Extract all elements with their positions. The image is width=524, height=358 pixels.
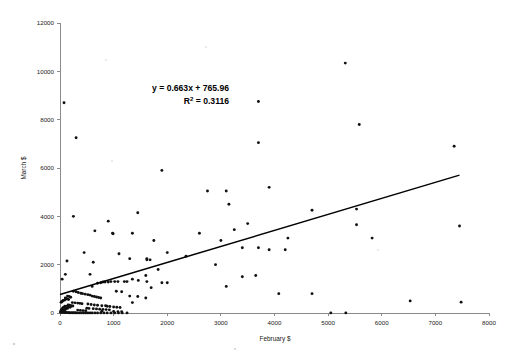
data-point [409, 299, 412, 302]
data-point [152, 239, 155, 242]
data-point [112, 310, 115, 313]
data-point [120, 310, 123, 313]
data-point [128, 257, 131, 260]
data-point [93, 229, 96, 232]
data-point [225, 190, 228, 193]
x-tick-label: 8000 [482, 319, 496, 326]
data-point [95, 307, 98, 310]
x-tick-label: 2000 [160, 319, 174, 326]
data-point [92, 307, 95, 310]
data-point [131, 278, 134, 281]
data-point [257, 246, 260, 249]
data-point [166, 251, 169, 254]
data-point [96, 304, 99, 307]
y-axis-ticks: 020004000600080001000012000 [37, 19, 60, 316]
data-point [71, 301, 74, 304]
data-point [69, 296, 72, 299]
data-point [61, 278, 64, 281]
data-point [206, 190, 209, 193]
data-point [358, 123, 361, 126]
data-point [254, 274, 257, 277]
data-point [145, 280, 148, 283]
x-tick-label: 0 [58, 319, 62, 326]
data-point [115, 290, 118, 293]
data-point [72, 215, 75, 218]
x-tick-label: 1000 [107, 319, 121, 326]
x-tick-label: 7000 [428, 319, 442, 326]
data-point [371, 237, 374, 240]
data-point [108, 305, 111, 308]
data-point [83, 251, 86, 254]
data-point [246, 222, 249, 225]
data-point [136, 211, 139, 214]
data-point [137, 279, 140, 282]
data-point [344, 62, 347, 65]
data-point [118, 252, 121, 255]
data-point [64, 273, 67, 276]
regression-equation-label: y = 0.663x + 765.96 [152, 83, 229, 93]
data-point [311, 292, 314, 295]
data-point [88, 307, 91, 310]
data-point [108, 308, 111, 311]
x-tick-label: 3000 [214, 319, 228, 326]
data-point [286, 237, 289, 240]
trendline [60, 175, 460, 294]
data-point [160, 281, 163, 284]
y-tick-label: 0 [51, 309, 55, 316]
data-point [93, 304, 96, 307]
data-point [160, 169, 163, 172]
data-point [93, 311, 96, 314]
data-point [277, 292, 280, 295]
data-point [112, 232, 115, 235]
data-point [60, 301, 63, 304]
data-point [241, 275, 244, 278]
data-point [257, 141, 260, 144]
data-point [123, 280, 126, 283]
y-tick-label: 10000 [37, 68, 55, 75]
data-point [119, 306, 122, 309]
data-point [128, 295, 131, 298]
data-point [63, 101, 66, 104]
data-point [74, 301, 77, 304]
data-point [131, 301, 134, 304]
data-point [106, 305, 109, 308]
data-point [344, 311, 347, 314]
data-point [355, 208, 358, 211]
data-point [113, 280, 116, 283]
data-point [233, 228, 236, 231]
data-point [67, 298, 70, 301]
data-point [268, 248, 271, 251]
data-point [157, 268, 160, 271]
x-tick-label: 5000 [321, 319, 335, 326]
data-point [86, 303, 89, 306]
data-point [268, 186, 271, 189]
data-point [71, 305, 74, 308]
x-tick-label: 6000 [375, 319, 389, 326]
data-point [144, 274, 147, 277]
data-point [355, 223, 358, 226]
x-axis-ticks: 010002000300040005000600070008000 [58, 313, 496, 326]
data-point [90, 303, 93, 306]
data-point [81, 302, 84, 305]
data-point [109, 311, 112, 314]
data-point [150, 286, 153, 289]
data-point [107, 220, 110, 223]
data-point [100, 304, 103, 307]
x-tick-label: 4000 [268, 319, 282, 326]
data-point [198, 232, 201, 235]
data-point [126, 280, 129, 283]
data-point [89, 273, 92, 276]
y-axis-title: March $ [20, 156, 27, 180]
data-point [329, 311, 332, 314]
y-tick-label: 6000 [40, 164, 54, 171]
axes-group [60, 23, 489, 313]
data-point [227, 203, 230, 206]
r-squared-label: R2 = 0.3116 [184, 95, 229, 106]
data-point [109, 280, 112, 283]
data-point [460, 301, 463, 304]
scatter-chart: 020004000600080001000012000 010002000300… [0, 0, 524, 358]
data-point [144, 297, 147, 300]
data-point [453, 145, 456, 148]
data-point [66, 260, 69, 263]
data-point [106, 311, 109, 314]
